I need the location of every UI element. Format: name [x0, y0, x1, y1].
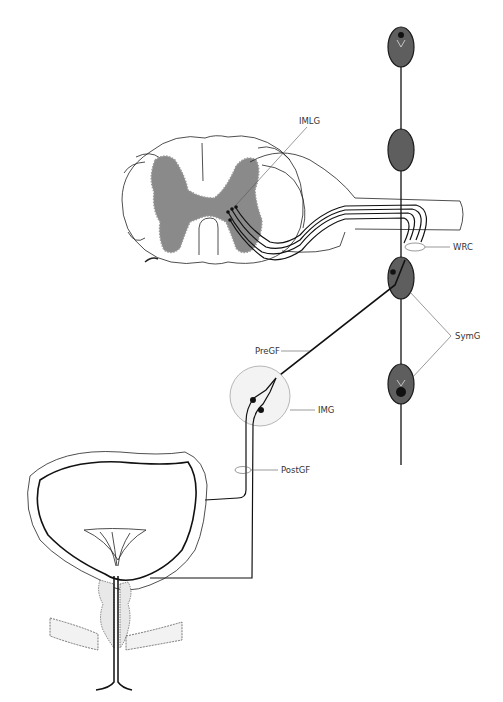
- label-imlg: IMLG: [299, 116, 320, 126]
- label-pregf: PreGF: [255, 346, 280, 356]
- chain-ganglion-4: [388, 364, 414, 404]
- label-symg: SymG: [455, 331, 480, 341]
- bladder: [28, 452, 207, 591]
- sympathetic-bladder-diagram: IMLG WRC SymG PreGF IMG PostGF: [0, 0, 503, 702]
- prostate: [96, 576, 132, 690]
- chain-ganglion-3: [388, 257, 414, 299]
- label-img: IMG: [318, 405, 334, 415]
- preganglionic-fiber: [268, 260, 405, 388]
- label-wrc: WRC: [453, 242, 473, 252]
- inferior-mesenteric-ganglion: [150, 366, 290, 578]
- pelvic-floor: [50, 618, 182, 650]
- chain-ganglion-1: [388, 27, 414, 67]
- nerve-roots: [250, 153, 463, 252]
- label-postgf: PostGF: [281, 465, 310, 475]
- chain-ganglion-2: [388, 129, 414, 171]
